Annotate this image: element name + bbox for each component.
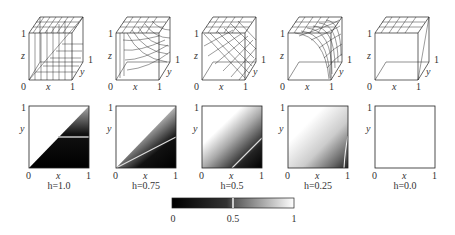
svg-text:0: 0 [171,213,176,224]
svg-text:1: 1 [432,170,437,181]
svg-text:1: 1 [292,213,297,224]
svg-text:1: 1 [416,81,421,92]
svg-text:1: 1 [280,102,285,113]
svg-text:h=0.25: h=0.25 [304,180,332,191]
cube-plot-h075 [116,17,170,80]
svg-text:z: z [193,50,198,61]
svg-text:h=0.5: h=0.5 [220,180,243,191]
svg-text:x: x [218,81,224,92]
svg-text:x: x [304,81,310,92]
svg-text:z: z [366,50,371,61]
svg-text:y: y [365,123,371,134]
svg-text:0: 0 [285,170,290,181]
svg-text:0: 0 [372,170,377,181]
svg-text:1: 1 [367,28,372,39]
svg-text:1: 1 [194,102,199,113]
svg-text:y: y [252,66,258,77]
cube-labels-2: 1 z 0 x 1 1 y [107,28,180,92]
colorbar: 0 0.5 1 [171,198,297,224]
svg-text:0: 0 [194,81,199,92]
svg-text:1: 1 [108,102,113,113]
svg-text:1: 1 [259,170,264,181]
svg-text:y: y [166,66,172,77]
svg-text:0: 0 [280,81,285,92]
svg-text:0: 0 [199,170,204,181]
svg-text:1: 1 [70,81,75,92]
svg-text:1: 1 [345,170,350,181]
figure: 1 z 0 x 1 1 y 1 z 0 x 1 1 y 1 z 0 x 1 1 … [0,0,455,235]
svg-text:0: 0 [21,81,26,92]
cube-plots [29,17,429,80]
svg-text:x: x [45,81,51,92]
density-plot-h075 [116,106,176,168]
svg-text:0: 0 [367,81,372,92]
cube-plot-h05 [202,17,256,80]
svg-text:1: 1 [367,102,372,113]
density-plot-h025 [288,106,348,168]
svg-text:1: 1 [175,54,180,65]
cube-labels-5: 1 z 0 x 1 1 y [366,28,439,92]
cube-plot-h0 [375,17,429,80]
svg-text:0.5: 0.5 [227,213,240,224]
svg-text:1: 1 [243,81,248,92]
svg-text:x: x [132,81,138,92]
svg-text:0: 0 [108,81,113,92]
density-plot-h1 [29,106,89,168]
svg-text:y: y [425,66,431,77]
svg-text:z: z [107,50,112,61]
svg-text:1: 1 [434,54,439,65]
cube-labels-4: 1 z 0 x 1 1 y [279,28,352,92]
svg-text:0: 0 [113,170,118,181]
cube-plot-h025 [288,17,342,80]
density-plot-h05 [202,106,262,168]
density-plots [29,106,435,168]
svg-text:1: 1 [88,54,93,65]
svg-text:x: x [391,81,397,92]
svg-text:y: y [278,123,284,134]
svg-text:y: y [19,123,25,134]
svg-text:z: z [279,50,284,61]
svg-text:1: 1 [86,170,91,181]
cube-plot-h1 [29,17,83,80]
cube-labels-1: 1 z 0 x 1 1 y [20,28,93,92]
svg-text:h=0.0: h=0.0 [393,180,416,191]
svg-text:1: 1 [157,81,162,92]
cube-labels-3: 1 z 0 x 1 1 y [193,28,266,92]
svg-text:z: z [20,50,25,61]
svg-text:1: 1 [194,28,199,39]
svg-text:1: 1 [280,28,285,39]
density-plot-h0 [375,106,435,168]
svg-text:y: y [192,123,198,134]
svg-text:y: y [79,66,85,77]
svg-text:1: 1 [21,102,26,113]
svg-text:1: 1 [108,28,113,39]
svg-text:1: 1 [173,170,178,181]
svg-text:y: y [338,66,344,77]
svg-text:y: y [106,123,112,134]
svg-text:1: 1 [21,28,26,39]
svg-text:h=1.0: h=1.0 [47,180,70,191]
svg-text:h=0.75: h=0.75 [132,180,160,191]
svg-text:1: 1 [329,81,334,92]
svg-text:1: 1 [261,54,266,65]
svg-text:0: 0 [26,170,31,181]
svg-text:1: 1 [347,54,352,65]
